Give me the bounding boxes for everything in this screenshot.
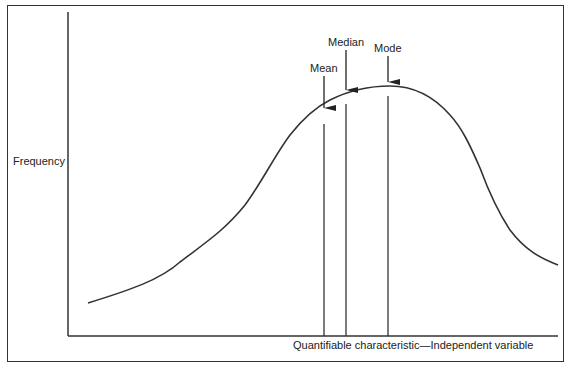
distribution-curve	[88, 86, 558, 303]
y-axis-label: Frequency	[13, 155, 65, 167]
mean-label: Mean	[310, 62, 338, 74]
distribution-diagram	[0, 0, 571, 368]
mode-label: Mode	[374, 42, 402, 54]
median-label: Median	[328, 36, 364, 48]
x-axis-label: Quantifiable characteristic—Independent …	[293, 339, 533, 351]
